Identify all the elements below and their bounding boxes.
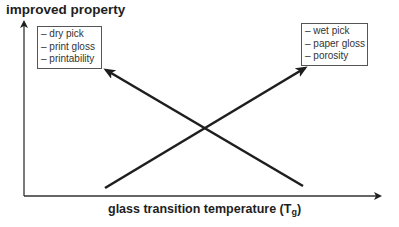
property-item: – print gloss — [41, 41, 98, 54]
x-axis-label: glass transition temperature (Tg) — [108, 202, 301, 217]
x-axis-label-close: ) — [297, 202, 301, 216]
high-tg-properties-box: – wet pick – paper gloss – porosity — [301, 23, 368, 66]
x-axis-label-text: glass transition temperature (T — [108, 202, 291, 216]
property-item: – porosity — [305, 50, 364, 63]
y-axis-label: improved property — [6, 2, 125, 17]
property-item: – printability — [41, 53, 98, 66]
property-item: – wet pick — [305, 25, 364, 38]
low-tg-properties-box: – dry pick – print gloss – printability — [37, 26, 102, 69]
property-item: – dry pick — [41, 28, 98, 41]
property-item: – paper gloss — [305, 38, 364, 51]
